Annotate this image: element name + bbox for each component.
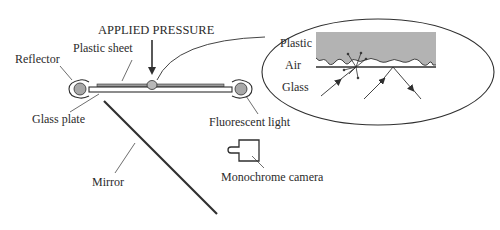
plastic-sheet-leader-line: [122, 60, 132, 81]
reflector-label: Reflector: [15, 52, 60, 66]
fluorescent-light-label: Fluorescent light: [209, 115, 291, 129]
right-fluorescent-lamp: [235, 83, 247, 95]
reflected-ray-tir-continued: [410, 86, 421, 99]
inset-glass-label: Glass: [282, 80, 309, 94]
camera-label: Monochrome camera: [221, 170, 324, 184]
incident-ray-tir-continued: [380, 67, 393, 83]
left-reflector: [69, 80, 89, 98]
inset-air-label: Air: [285, 58, 301, 72]
right-reflector: [232, 80, 252, 98]
contact-point-marker: [147, 81, 157, 90]
mirror-label: Mirror: [92, 175, 124, 189]
reflected-ray-tir: [393, 67, 412, 89]
inset-plastic-label: Plastic: [280, 36, 312, 50]
plastic-sheet-label: Plastic sheet: [73, 41, 133, 55]
glass-plate-label: Glass plate: [32, 112, 85, 126]
mirror: [104, 101, 217, 214]
applied-pressure-label: APPLIED PRESSURE: [98, 23, 215, 37]
reflector-leader-line: [60, 66, 72, 80]
camera-icon: [228, 140, 259, 161]
mirror-leader-line: [115, 143, 135, 173]
ftir-sensor-diagram: APPLIED PRESSURE Reflector Plastic sheet…: [0, 0, 500, 230]
camera-leader-line: [252, 156, 264, 168]
inset-connector-line: [157, 37, 265, 80]
glass-plate: [89, 87, 232, 92]
fluorescent-light-leader-line: [246, 96, 258, 114]
left-fluorescent-lamp: [74, 83, 86, 95]
